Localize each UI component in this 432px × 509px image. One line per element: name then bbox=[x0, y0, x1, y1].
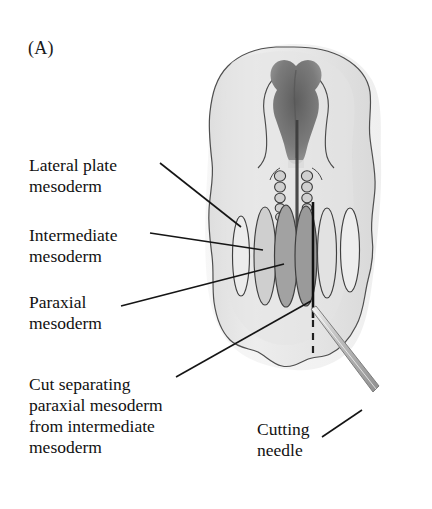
band-lateral-plate-right bbox=[341, 208, 360, 292]
band-paraxial-left bbox=[275, 205, 298, 307]
band-intermediate-left bbox=[254, 207, 276, 305]
label-cutting-needle: Cutting needle bbox=[257, 419, 310, 461]
panel-label: (A) bbox=[28, 38, 54, 59]
label-paraxial-mesoderm: Paraxial mesoderm bbox=[29, 292, 102, 334]
figure-panel-a: (A) Lateral plate mesoderm Intermediate … bbox=[0, 0, 432, 509]
label-lateral-plate-mesoderm: Lateral plate mesoderm bbox=[29, 155, 117, 197]
label-cut-separating: Cut separating paraxial mesoderm from in… bbox=[29, 374, 163, 458]
band-lateral-plate-left bbox=[233, 216, 250, 296]
leader-needle bbox=[322, 410, 362, 437]
label-intermediate-mesoderm: Intermediate mesoderm bbox=[29, 225, 117, 267]
band-intermediate-right bbox=[318, 208, 337, 298]
